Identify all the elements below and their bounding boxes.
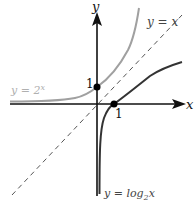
logarithm-label: y = log2x (103, 187, 156, 202)
y-intercept-label: 1 (86, 77, 94, 91)
graph-canvas: y x 1 1 y = x y = 2x y = log2x (0, 0, 194, 204)
y-intercept-point (94, 84, 101, 91)
y-axis-label: y (91, 0, 100, 14)
logarithm-curve (100, 62, 183, 194)
exponential-label: y = 2x (10, 83, 45, 97)
x-axis-label: x (186, 97, 194, 112)
identity-label: y = x (146, 15, 178, 29)
x-intercept-label: 1 (115, 107, 123, 121)
